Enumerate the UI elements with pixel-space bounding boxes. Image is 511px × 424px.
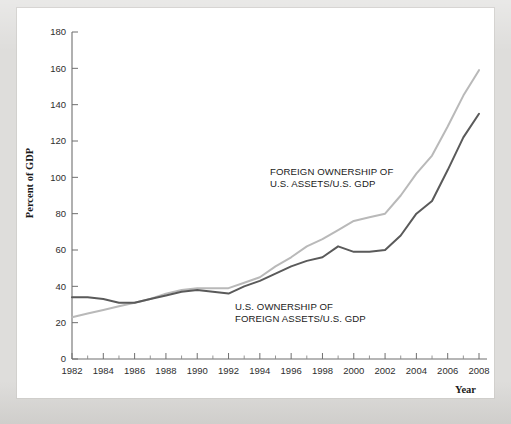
y-axis-tick-labels: 020406080100120140160180: [50, 26, 66, 364]
series-line-us-ownership: [72, 114, 479, 303]
chart-figure: 020406080100120140160180 198219841986198…: [17, 8, 494, 398]
y-tick-label-80: 80: [55, 208, 66, 219]
x-axis-title: Year: [455, 384, 476, 395]
y-tick-label-180: 180: [50, 26, 66, 37]
y-tick-label-40: 40: [55, 281, 66, 292]
annotation-foreign-ownership-line1: FOREIGN OWNERSHIP OF: [270, 166, 393, 177]
y-tick-label-120: 120: [50, 135, 66, 146]
y-tick-label-60: 60: [55, 244, 66, 255]
y-axis-ticks: [72, 32, 78, 359]
x-tick-label-1994: 1994: [249, 365, 270, 376]
series-line-foreign-ownership: [72, 70, 479, 317]
x-tick-label-2008: 2008: [468, 365, 489, 376]
annotation-foreign-ownership-line2: U.S. ASSETS/U.S. GDP: [270, 178, 375, 189]
y-axis-title: Percent of GDP: [24, 147, 35, 218]
x-tick-label-1990: 1990: [187, 365, 208, 376]
x-tick-label-2000: 2000: [343, 365, 364, 376]
line-chart: 020406080100120140160180 198219841986198…: [17, 8, 494, 398]
annotation-us-ownership-line2: FOREIGN ASSETS/U.S. GDP: [235, 313, 366, 324]
x-tick-label-2002: 2002: [375, 365, 396, 376]
y-tick-label-0: 0: [61, 353, 66, 364]
x-tick-label-2006: 2006: [437, 365, 458, 376]
x-tick-label-1982: 1982: [61, 365, 82, 376]
y-tick-label-140: 140: [50, 99, 66, 110]
x-tick-label-1988: 1988: [155, 365, 176, 376]
y-tick-label-100: 100: [50, 172, 66, 183]
x-tick-label-2004: 2004: [406, 365, 427, 376]
page-background: 020406080100120140160180 198219841986198…: [0, 0, 511, 424]
x-axis-tick-labels: 1982198419861988199019921994199619982000…: [61, 365, 489, 376]
y-tick-label-160: 160: [50, 63, 66, 74]
x-tick-label-1998: 1998: [312, 365, 333, 376]
annotation-us-ownership-line1: U.S. OWNERSHIP OF: [235, 301, 333, 312]
x-tick-label-1984: 1984: [93, 365, 114, 376]
x-tick-label-1986: 1986: [124, 365, 145, 376]
x-tick-label-1992: 1992: [218, 365, 239, 376]
y-tick-label-20: 20: [55, 317, 66, 328]
x-tick-label-1996: 1996: [281, 365, 302, 376]
x-axis-ticks: [72, 353, 479, 359]
